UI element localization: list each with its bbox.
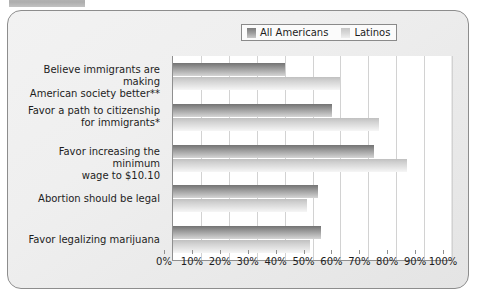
category-label-2: Favor increasing the minimumwage to $10.… bbox=[10, 146, 160, 182]
category-label-3: Abortion should be legal bbox=[10, 193, 160, 205]
axis-tick bbox=[164, 250, 165, 254]
category-label-line: Favor legalizing marijuana bbox=[10, 234, 160, 246]
category-label-line: Believe immigrants are making bbox=[10, 64, 160, 88]
legend-swatch-icon-all-americans bbox=[247, 28, 256, 38]
axis-tick bbox=[192, 250, 193, 254]
gridline bbox=[424, 56, 425, 260]
legend-swatch-icon-latinos bbox=[341, 28, 350, 38]
axis-tick bbox=[220, 250, 221, 254]
bar-0-2 bbox=[173, 145, 374, 158]
category-label-line: Favor increasing the minimum bbox=[10, 146, 160, 170]
bar-1-0 bbox=[173, 77, 340, 90]
axis-tick-label: 80% bbox=[376, 256, 398, 267]
axis-tick-label: 90% bbox=[404, 256, 426, 267]
plot-wrap bbox=[165, 56, 451, 260]
axis-tick bbox=[387, 250, 388, 254]
axis-tick-label: 60% bbox=[320, 256, 342, 267]
gridline bbox=[452, 56, 453, 260]
category-axis-labels: Believe immigrants are makingAmerican so… bbox=[8, 56, 160, 260]
legend-entry-all-americans: All Americans bbox=[247, 27, 328, 38]
category-label-line: American society better** bbox=[10, 88, 160, 100]
axis-tick bbox=[248, 250, 249, 254]
axis-tick bbox=[331, 250, 332, 254]
axis-tick-label: 20% bbox=[209, 256, 231, 267]
bar-0-4 bbox=[173, 226, 321, 239]
bar-0-0 bbox=[173, 63, 285, 76]
category-label-4: Favor legalizing marijuana bbox=[10, 234, 160, 246]
figure-root: All Americans Latinos Believe immigrants… bbox=[0, 0, 481, 299]
legend-label-all-americans: All Americans bbox=[260, 27, 328, 38]
bar-1-4 bbox=[173, 240, 310, 253]
bar-0-1 bbox=[173, 104, 332, 117]
axis-tick-label: 30% bbox=[237, 256, 259, 267]
axis-tick bbox=[443, 250, 444, 254]
axis-tick bbox=[276, 250, 277, 254]
category-label-1: Favor a path to citizenshipfor immigrant… bbox=[10, 105, 160, 129]
category-label-line: for immigrants* bbox=[10, 117, 160, 129]
axis-tick-label: 50% bbox=[292, 256, 314, 267]
bar-0-3 bbox=[173, 185, 318, 198]
category-label-0: Believe immigrants are makingAmerican so… bbox=[10, 64, 160, 100]
axis-tick-label: 10% bbox=[181, 256, 203, 267]
chart-frame: All Americans Latinos Believe immigrants… bbox=[7, 10, 469, 289]
chart-legend: All Americans Latinos bbox=[241, 24, 397, 41]
category-label-line: Favor a path to citizenship bbox=[10, 105, 160, 117]
legend-entry-latinos: Latinos bbox=[341, 27, 390, 38]
bar-1-1 bbox=[173, 118, 379, 131]
category-label-line: wage to $10.10 bbox=[10, 170, 160, 182]
axis-tick-label: 0% bbox=[156, 256, 172, 267]
axis-tick-label: 100% bbox=[429, 256, 458, 267]
axis-tick bbox=[304, 250, 305, 254]
legend-label-latinos: Latinos bbox=[354, 27, 390, 38]
bar-1-2 bbox=[173, 159, 407, 172]
axis-tick bbox=[415, 250, 416, 254]
bar-1-3 bbox=[173, 199, 307, 212]
axis-tick bbox=[359, 250, 360, 254]
plot-area bbox=[172, 56, 451, 260]
category-label-line: Abortion should be legal bbox=[10, 193, 160, 205]
axis-tick-label: 40% bbox=[264, 256, 286, 267]
axis-tick-label: 70% bbox=[348, 256, 370, 267]
caption-stub bbox=[9, 0, 85, 7]
